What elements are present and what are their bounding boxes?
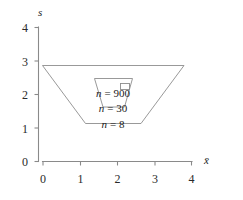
y-tick-label-0: 0 bbox=[22, 155, 28, 169]
annotation-n30: n= 30 bbox=[99, 102, 128, 114]
x-tick-label-2: 2 bbox=[115, 172, 121, 186]
annotation-n900: n= 900 bbox=[96, 87, 130, 99]
annotation-n30-value: = 30 bbox=[107, 102, 127, 114]
annotation-n900-value: = 900 bbox=[105, 87, 131, 99]
x-tick-label-4: 4 bbox=[189, 172, 195, 186]
annotation-n900-var: n bbox=[96, 87, 102, 99]
y-tick-label-3: 3 bbox=[22, 55, 28, 69]
annotation-n30-var: n bbox=[99, 102, 105, 114]
x-tick-label-1: 1 bbox=[78, 172, 84, 186]
y-tick-label-4: 4 bbox=[22, 21, 28, 35]
annotation-n8: n= 8 bbox=[102, 118, 125, 130]
y-axis-label: s bbox=[38, 6, 42, 18]
y-tick-label-2: 2 bbox=[22, 88, 28, 102]
annotation-n8-value: = 8 bbox=[110, 118, 125, 130]
y-tick-label-1: 1 bbox=[22, 122, 28, 136]
x-tick-label-0: 0 bbox=[40, 172, 46, 186]
x-axis-label: x̄ bbox=[203, 154, 209, 166]
annotation-n8-var: n bbox=[102, 118, 108, 130]
x-tick-label-3: 3 bbox=[152, 172, 158, 186]
statistics-figure: s 4 3 2 1 0 n= 900 n= 30 n= 8 0 1 2 3 4 … bbox=[0, 0, 243, 200]
